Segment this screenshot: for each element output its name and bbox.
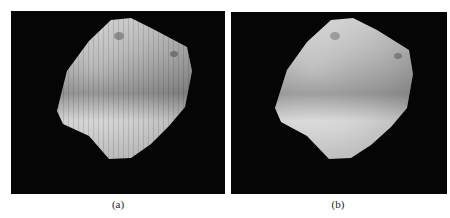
caption-a: (a)	[98, 198, 138, 210]
panel-b-image	[231, 12, 447, 194]
caption-b: (b)	[318, 198, 358, 210]
surface-render-b	[231, 12, 447, 194]
surface-render-a	[11, 11, 225, 194]
panel-a-image	[11, 11, 225, 194]
